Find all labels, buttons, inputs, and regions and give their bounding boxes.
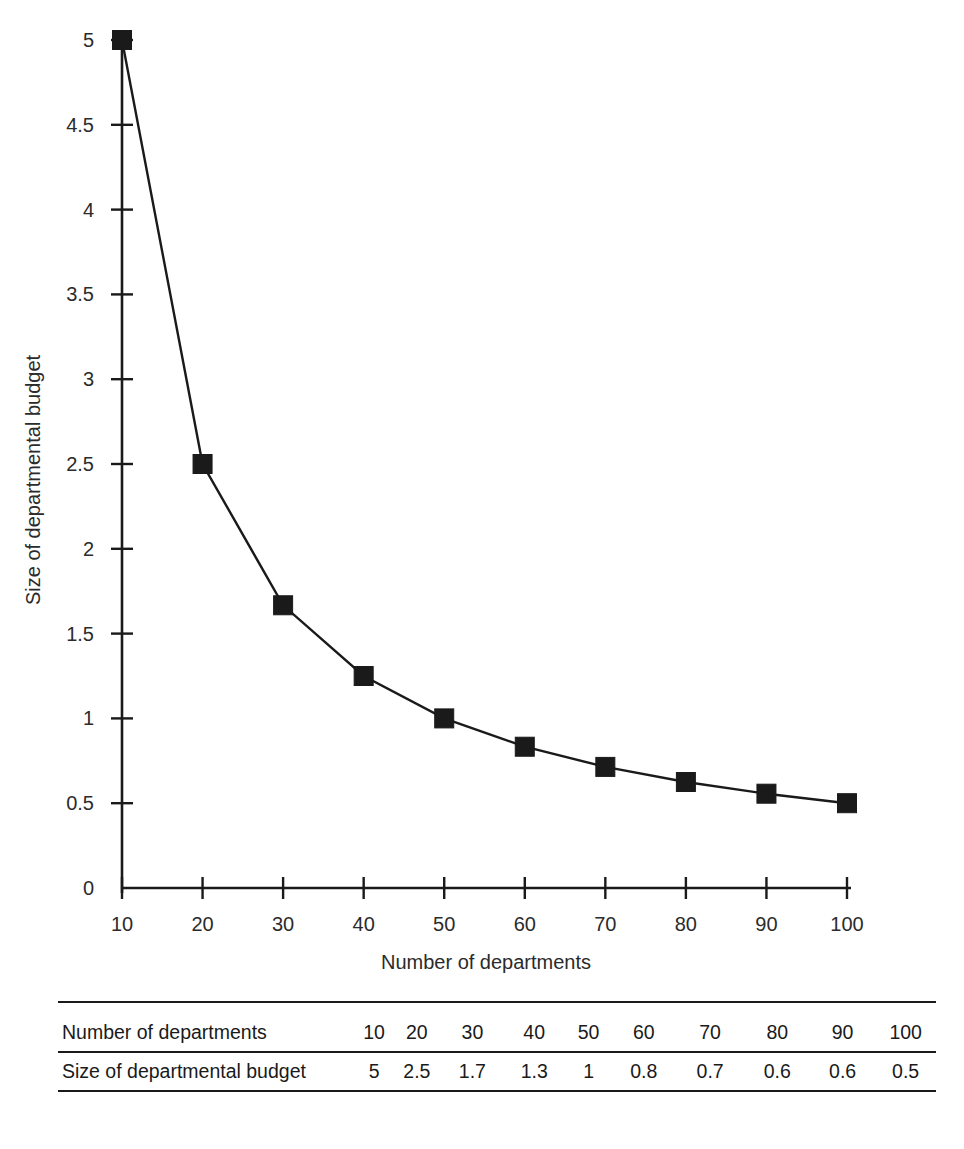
data-point-marker xyxy=(676,773,695,792)
table-cell: 1 xyxy=(565,1052,612,1091)
x-axis-tick-label: 100 xyxy=(830,913,863,935)
y-axis-tick-label: 4 xyxy=(83,199,94,221)
table-cell: 20 xyxy=(392,1014,441,1052)
y-axis-tick-label: 2.5 xyxy=(66,453,94,475)
x-axis-tick-label: 70 xyxy=(594,913,616,935)
table-cell: 80 xyxy=(745,1014,810,1052)
table-cell: 30 xyxy=(442,1014,504,1052)
data-point-marker xyxy=(354,667,373,686)
table-row-label: Size of departmental budget xyxy=(58,1052,356,1091)
table-cell: 0.6 xyxy=(810,1052,875,1091)
table-row: Size of departmental budget52.51.71.310.… xyxy=(58,1052,936,1091)
x-axis-tick-label: 40 xyxy=(353,913,375,935)
x-axis-title: Number of departments xyxy=(381,951,591,973)
x-axis-tick-label: 30 xyxy=(272,913,294,935)
table-cell: 0.5 xyxy=(875,1052,936,1091)
y-axis-title: Size of departmental budget xyxy=(22,354,44,605)
y-axis-tick-label: 3.5 xyxy=(66,283,94,305)
x-axis-tick-label: 10 xyxy=(111,913,133,935)
table-spacer-row xyxy=(58,1003,936,1014)
data-point-marker xyxy=(193,455,212,474)
table-cell: 70 xyxy=(676,1014,745,1052)
table-row: Number of departments1020304050607080901… xyxy=(58,1014,936,1052)
figure-container: 00.511.522.533.544.55 102030405060708090… xyxy=(0,0,964,1149)
y-axis-tick-label: 1.5 xyxy=(66,623,94,645)
table-row-label: Number of departments xyxy=(58,1014,356,1052)
table-cell: 0.6 xyxy=(745,1052,810,1091)
line-chart: 00.511.522.533.544.55 102030405060708090… xyxy=(0,0,964,1000)
data-point-marker xyxy=(435,709,454,728)
table-cell: 1.3 xyxy=(503,1052,565,1091)
x-axis-tick-label: 50 xyxy=(433,913,455,935)
y-axis-tick-label: 1 xyxy=(83,707,94,729)
table-cell: 2.5 xyxy=(392,1052,441,1091)
x-axis-tick-label: 80 xyxy=(675,913,697,935)
y-axis-tick-label: 3 xyxy=(83,368,94,390)
data-point-markers xyxy=(113,31,857,813)
table-cell: 40 xyxy=(503,1014,565,1052)
data-point-marker xyxy=(113,31,132,50)
table-cell: 50 xyxy=(565,1014,612,1052)
table-cell: 90 xyxy=(810,1014,875,1052)
x-axis-tick-label: 20 xyxy=(191,913,213,935)
y-axis-tick-labels: 00.511.522.533.544.55 xyxy=(66,29,94,899)
data-point-marker xyxy=(274,596,293,615)
y-axis-tick-label: 4.5 xyxy=(66,114,94,136)
table-cell: 10 xyxy=(356,1014,392,1052)
table-cell: 0.8 xyxy=(612,1052,676,1091)
x-axis-tick-labels: 102030405060708090100 xyxy=(111,913,864,935)
table-cell: 5 xyxy=(356,1052,392,1091)
y-axis-tick-label: 2 xyxy=(83,538,94,560)
table-cell: 60 xyxy=(612,1014,676,1052)
table-cell: 1.7 xyxy=(442,1052,504,1091)
table-cell: 100 xyxy=(875,1014,936,1052)
x-axis-tick-label: 90 xyxy=(755,913,777,935)
table-cell: 0.7 xyxy=(676,1052,745,1091)
data-line-series xyxy=(122,40,847,803)
y-axis-tick-label: 0 xyxy=(83,877,94,899)
data-point-marker xyxy=(515,737,534,756)
data-table-container: Number of departments1020304050607080901… xyxy=(58,1001,936,1092)
chart-data-table: Number of departments1020304050607080901… xyxy=(58,1001,936,1092)
data-point-marker xyxy=(757,784,776,803)
table-spacer-cell xyxy=(58,1003,936,1014)
x-axis-tick-label: 60 xyxy=(514,913,536,935)
y-axis-tick-label: 0.5 xyxy=(66,792,94,814)
data-point-marker xyxy=(596,757,615,776)
data-point-marker xyxy=(838,794,857,813)
y-axis-tick-label: 5 xyxy=(83,29,94,51)
